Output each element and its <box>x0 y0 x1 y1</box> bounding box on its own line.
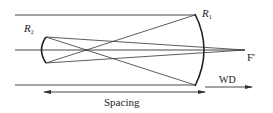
label-focal-point: F' <box>247 51 255 63</box>
label-r1: R1 <box>201 7 212 20</box>
ray-r1-bottom-to-r2-top <box>46 37 195 85</box>
ray-r2-bottom-to-focus <box>46 50 245 63</box>
label-spacing: Spacing <box>104 96 140 108</box>
label-working-distance: WD <box>219 74 236 85</box>
ray-r2-top-to-focus <box>46 37 245 50</box>
optical-diagram: R2 R1 F' WD Spacing <box>0 0 273 113</box>
ray-r1-top-to-r2-bottom <box>46 15 195 63</box>
label-r2: R2 <box>23 22 34 35</box>
